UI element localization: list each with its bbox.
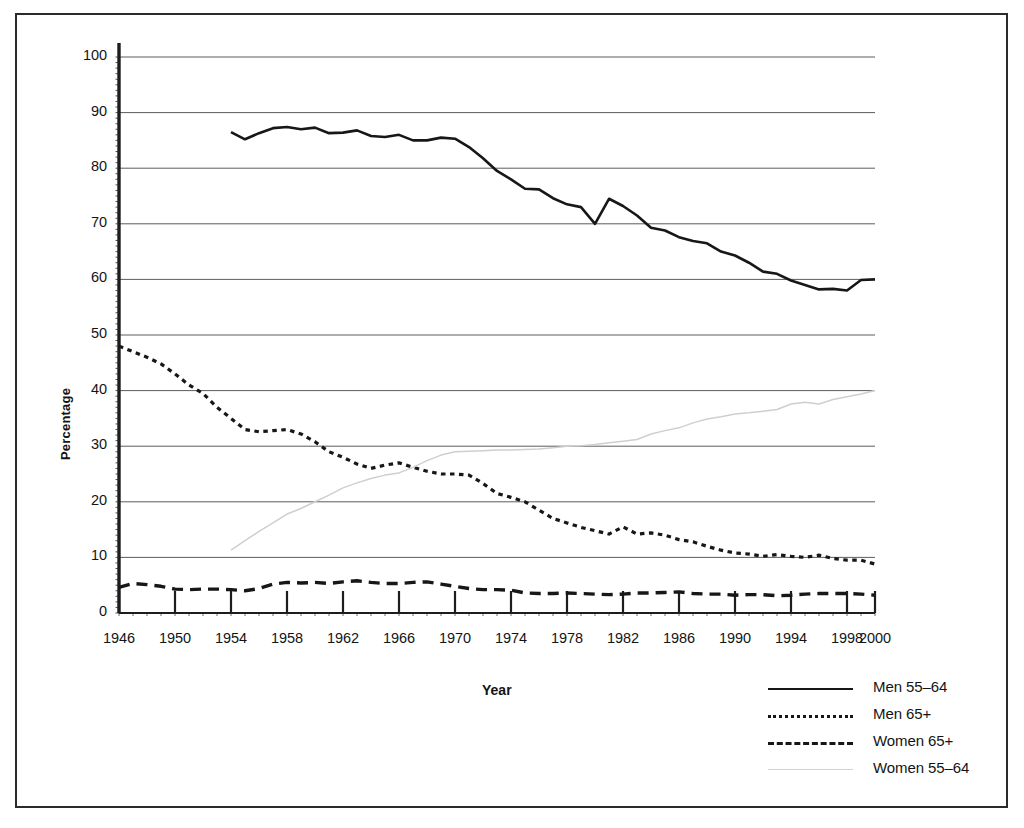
- x-tick-label: 1958: [257, 630, 317, 646]
- y-tick-label: 40: [41, 381, 107, 397]
- axis-ticks: [116, 57, 876, 616]
- legend-label-women-55-64: Women 55–64: [873, 759, 969, 776]
- x-tick-label: 1966: [369, 630, 429, 646]
- x-tick-label: 1986: [649, 630, 709, 646]
- figure-container: Percentage Year 0102030405060708090100 1…: [0, 0, 1024, 828]
- series-line: [231, 391, 875, 551]
- y-tick-label: 10: [41, 547, 107, 563]
- legend-label-women-65-plus: Women 65+: [873, 732, 953, 749]
- legend-item[interactable]: Men 65+: [768, 703, 998, 730]
- x-tick-label: 1950: [145, 630, 205, 646]
- x-tick-label: 1962: [313, 630, 373, 646]
- axis-lines: [119, 43, 875, 613]
- legend-swatch-women-65-plus: [768, 742, 853, 748]
- series-line: [119, 581, 875, 596]
- y-tick-label: 50: [41, 325, 107, 341]
- x-tick-label: 1974: [481, 630, 541, 646]
- x-tick-label: 1990: [705, 630, 765, 646]
- x-tick-label: 1978: [537, 630, 597, 646]
- legend-swatch-men-65-plus: [768, 715, 853, 721]
- x-tick-label: 1982: [593, 630, 653, 646]
- y-tick-label: 30: [41, 436, 107, 452]
- x-tick-label: 1994: [761, 630, 821, 646]
- legend-swatch-men-55-64: [768, 688, 853, 693]
- y-tick-label: 60: [41, 269, 107, 285]
- y-tick-label: 100: [41, 47, 107, 63]
- series-line: [231, 127, 875, 290]
- y-tick-label: 70: [41, 214, 107, 230]
- y-tick-label: 90: [41, 103, 107, 119]
- legend-item[interactable]: Men 55–64: [768, 676, 998, 703]
- legend-label-men-65-plus: Men 65+: [873, 705, 931, 722]
- legend-swatch-women-55-64: [768, 769, 853, 773]
- legend-item[interactable]: Women 65+: [768, 730, 998, 757]
- x-tick-label: 1954: [201, 630, 261, 646]
- x-tick-label: 1970: [425, 630, 485, 646]
- legend-item[interactable]: Women 55–64: [768, 757, 998, 784]
- y-tick-label: 80: [41, 158, 107, 174]
- y-tick-label: 20: [41, 492, 107, 508]
- series-line: [119, 346, 875, 564]
- data-series-layer: [119, 127, 875, 596]
- x-tick-label: 1946: [89, 630, 149, 646]
- legend: Men 55–64 Men 65+ Women 65+ Women 55–64: [768, 676, 998, 786]
- x-tick-label: 2000: [845, 630, 905, 646]
- legend-label-men-55-64: Men 55–64: [873, 678, 947, 695]
- y-tick-label: 0: [41, 603, 107, 619]
